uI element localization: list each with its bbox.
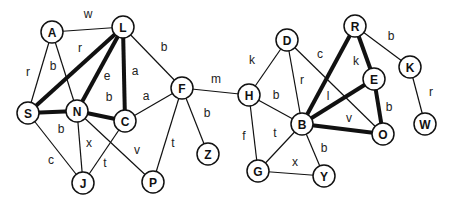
- node-C: C: [114, 110, 136, 132]
- node-A: A: [41, 21, 63, 43]
- node-label: D: [283, 34, 292, 48]
- edge-label: r: [429, 85, 433, 99]
- edge-label: x: [86, 136, 92, 150]
- node-G: G: [247, 160, 269, 182]
- node-O: O: [372, 123, 394, 145]
- node-label: J: [80, 177, 87, 191]
- edge-label: t: [273, 126, 277, 140]
- node-label: P: [149, 176, 157, 190]
- node-label: W: [419, 118, 431, 132]
- node-label: B: [298, 118, 307, 132]
- edge-label: r: [78, 41, 82, 55]
- edge-label: b: [58, 122, 65, 136]
- node-J: J: [72, 172, 94, 194]
- edge-label: x: [292, 155, 298, 169]
- node-D: D: [276, 29, 298, 51]
- edge-label: a: [143, 89, 150, 103]
- edge-L-C: [123, 27, 125, 121]
- node-W: W: [414, 113, 436, 135]
- edge-label: b: [50, 59, 57, 73]
- node-label: C: [121, 115, 130, 129]
- edge-label: b: [321, 141, 328, 155]
- edge-label: m: [211, 72, 221, 86]
- edge-label: k: [249, 53, 256, 67]
- edge-label: a: [132, 64, 139, 78]
- edge-label: k: [353, 54, 360, 68]
- node-E: E: [363, 68, 385, 90]
- edge-label: c: [48, 153, 54, 167]
- node-Z: Z: [197, 143, 219, 165]
- node-label: F: [178, 82, 185, 96]
- edge-label: f: [242, 129, 246, 143]
- edge-L-N: [77, 27, 123, 111]
- edge-label: e: [104, 69, 111, 83]
- node-label: S: [24, 107, 32, 121]
- node-Y: Y: [313, 165, 335, 187]
- edge-label: r: [300, 73, 304, 87]
- node-P: P: [142, 171, 164, 193]
- edge-label: b: [161, 40, 168, 54]
- edge-S-J: [28, 113, 83, 183]
- graph-diagram: wrbreabbcxtvbatbmkbfrckblvbrtbx ALSNCFZJ…: [0, 0, 455, 202]
- edge-label: v: [346, 111, 352, 125]
- node-K: K: [399, 56, 421, 78]
- edge-label: t: [103, 156, 107, 170]
- node-label: N: [73, 105, 82, 119]
- node-R: R: [344, 15, 366, 37]
- node-label: O: [378, 128, 387, 142]
- edge-L-F: [123, 27, 182, 88]
- node-label: K: [406, 61, 415, 75]
- edge-label: r: [26, 65, 30, 79]
- edge-B-O: [302, 124, 383, 134]
- node-label: Z: [204, 148, 211, 162]
- node-label: E: [370, 73, 378, 87]
- edges-layer: [28, 26, 425, 183]
- node-label: H: [245, 89, 254, 103]
- edge-label: l: [327, 89, 330, 103]
- node-label: A: [48, 26, 57, 40]
- edge-label: b: [386, 100, 393, 114]
- node-B: B: [291, 113, 313, 135]
- edge-label: b: [106, 90, 113, 104]
- node-label: R: [351, 20, 360, 34]
- edge-label: b: [273, 88, 280, 102]
- edge-label: v: [134, 143, 140, 157]
- node-label: Y: [320, 170, 328, 184]
- node-H: H: [238, 84, 260, 106]
- edge-label: b: [388, 29, 395, 43]
- node-N: N: [66, 100, 88, 122]
- edge-label: c: [317, 47, 323, 61]
- node-label: L: [119, 21, 126, 35]
- edge-label: b: [204, 106, 211, 120]
- edge-label: t: [171, 136, 175, 150]
- node-S: S: [17, 102, 39, 124]
- node-label: G: [253, 165, 262, 179]
- node-F: F: [171, 77, 193, 99]
- node-L: L: [112, 16, 134, 38]
- edge-label: w: [83, 7, 93, 21]
